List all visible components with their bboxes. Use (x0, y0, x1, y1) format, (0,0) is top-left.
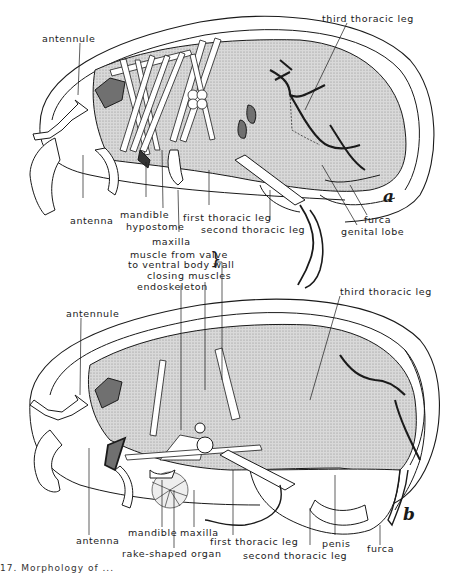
label-b-antennule: antennule (66, 309, 119, 319)
label-a-antennule: antennule (42, 34, 95, 44)
label-b-rake-shaped-organ: rake-shaped organ (122, 549, 222, 559)
label-b-third-thoracic-leg: third thoracic leg (340, 287, 432, 297)
label-a-mandible: mandible (120, 210, 169, 220)
label-b-antenna: antenna (76, 536, 119, 546)
label-a-second-thoracic-leg: second thoracic leg (201, 225, 305, 235)
label-a-first-thoracic-leg: first thoracic leg (183, 213, 271, 223)
panel-b-drawing (30, 299, 440, 534)
label-b-penis: penis (322, 539, 351, 549)
panel-letter-a: a (383, 186, 394, 206)
label-b-first-thoracic-leg: first thoracic leg (210, 537, 298, 547)
label-b-second-thoracic-leg: second thoracic leg (243, 551, 347, 561)
label-b-endoskeleton: endoskeleton (137, 282, 208, 292)
figure-caption-fragment: 17. Morphology of ... (0, 563, 114, 573)
label-a-antenna: antenna (70, 216, 113, 226)
label-a-third-thoracic-leg: third thoracic leg (322, 14, 414, 24)
label-b-mandible: mandible (128, 528, 177, 538)
label-a-hypostome: hypostome (126, 222, 184, 232)
label-a-furca: furca (364, 215, 391, 225)
panel-letter-b: b (403, 504, 415, 524)
panel-a-drawing (30, 16, 434, 288)
label-a-genital-lobe: genital lobe (341, 227, 404, 237)
label-b-furca: furca (367, 544, 394, 554)
label-b-brace: } (210, 250, 222, 268)
label-b-closing-muscles: closing muscles (147, 271, 231, 281)
label-a-maxilla: maxilla (152, 237, 191, 247)
